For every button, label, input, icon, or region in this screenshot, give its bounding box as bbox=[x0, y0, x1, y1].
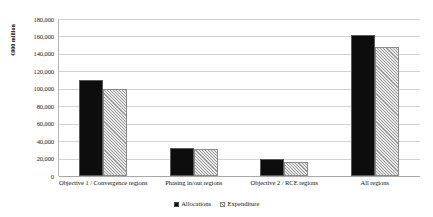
y-tick-label: 40,000 bbox=[4, 138, 54, 145]
x-axis-category-labels: Objective 1 / Convergence regionsPhasing… bbox=[58, 179, 420, 201]
legend-label: Allocations bbox=[181, 200, 211, 208]
y-tick-label: 120,000 bbox=[4, 68, 54, 75]
bar-group bbox=[351, 19, 399, 176]
y-tick-label: 60,000 bbox=[4, 120, 54, 127]
chart-legend: AllocationsExpenditure bbox=[0, 200, 433, 208]
y-tick-label: 140,000 bbox=[4, 50, 54, 57]
x-axis-line bbox=[59, 176, 420, 177]
y-tick-label: 20,000 bbox=[4, 155, 54, 162]
bar-group bbox=[79, 19, 127, 176]
x-axis-label: Objective 2 / RCE regions bbox=[239, 179, 330, 187]
bar-chart: €000 million 180,000160,000140,000120,00… bbox=[0, 0, 433, 217]
bar-expenditure[interactable] bbox=[284, 162, 308, 176]
y-tick-label: 160,000 bbox=[4, 33, 54, 40]
legend-swatch-icon bbox=[174, 202, 179, 207]
bar-allocations[interactable] bbox=[260, 159, 284, 176]
bars-layer bbox=[58, 19, 420, 176]
legend-item[interactable]: Expenditure bbox=[220, 200, 259, 208]
y-tick-label: 100,000 bbox=[4, 85, 54, 92]
bar-group bbox=[260, 19, 308, 176]
y-axis-tick-labels: 180,000160,000140,000120,000100,00080,00… bbox=[0, 19, 54, 176]
legend-swatch-icon bbox=[220, 202, 225, 207]
bar-expenditure[interactable] bbox=[103, 89, 127, 176]
bar-allocations[interactable] bbox=[79, 80, 103, 176]
bar-expenditure[interactable] bbox=[194, 149, 218, 176]
x-axis-label: All regions bbox=[330, 179, 421, 187]
y-tick-label: 180,000 bbox=[4, 16, 54, 23]
legend-item[interactable]: Allocations bbox=[174, 200, 211, 208]
bar-expenditure[interactable] bbox=[375, 47, 399, 176]
x-axis-label: Phasing in/out regions bbox=[149, 179, 240, 187]
x-axis-label: Objective 1 / Convergence regions bbox=[58, 179, 149, 187]
y-tick-label: 0 bbox=[4, 173, 54, 180]
bar-group bbox=[170, 19, 218, 176]
legend-label: Expenditure bbox=[228, 200, 260, 208]
bar-allocations[interactable] bbox=[351, 35, 375, 176]
bar-allocations[interactable] bbox=[170, 148, 194, 176]
y-tick-label: 80,000 bbox=[4, 103, 54, 110]
